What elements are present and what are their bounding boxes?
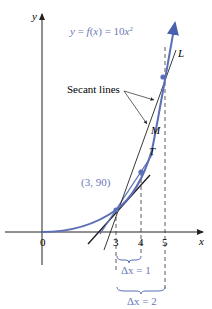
brace-dx1 — [117, 256, 141, 263]
line-M-label: M — [150, 124, 161, 136]
x-axis-label: x — [198, 235, 204, 247]
equation-label: y = f(x) = 10x2 — [69, 25, 134, 38]
secant-lines-label: Secant lines — [67, 83, 120, 95]
origin-label: 0 — [40, 236, 46, 248]
dashed-guides — [116, 47, 165, 290]
line-L-label: L — [177, 47, 184, 59]
secant-line-M — [100, 155, 152, 234]
y-axis-label: y — [31, 10, 37, 22]
secant-tangent-diagram: y x 0 3 4 5 y = f(x) = 10x2 Secant lines… — [0, 0, 212, 309]
delta-x-2-label: Δx = 2 — [127, 295, 157, 307]
x-tick-4: 4 — [138, 236, 144, 248]
line-T-label: T — [149, 145, 156, 157]
point-3-90 — [113, 207, 118, 212]
brace-dx2 — [117, 287, 165, 294]
x-tick-5: 5 — [162, 236, 168, 248]
secant-pointer-arrows — [124, 91, 154, 124]
delta-x-1-label: Δx = 1 — [121, 264, 151, 276]
point-coordinate-label: (3, 90) — [81, 176, 111, 189]
point-M — [138, 169, 143, 174]
point-L — [160, 74, 165, 79]
x-tick-3: 3 — [113, 236, 119, 248]
